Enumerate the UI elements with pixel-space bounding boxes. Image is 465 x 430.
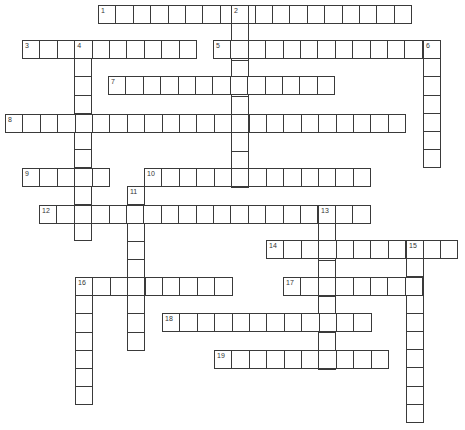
- crossword-cell[interactable]: [232, 313, 250, 332]
- crossword-cell[interactable]: [127, 313, 145, 332]
- crossword-cell[interactable]: [75, 295, 93, 314]
- crossword-cell[interactable]: [299, 76, 317, 95]
- crossword-cell[interactable]: [57, 40, 75, 59]
- crossword-cell[interactable]: [179, 277, 197, 296]
- crossword-cell[interactable]: [127, 222, 145, 241]
- crossword-cell[interactable]: [92, 277, 110, 296]
- crossword-cell[interactable]: [247, 76, 265, 95]
- crossword-cell[interactable]: [318, 332, 336, 351]
- crossword-cell[interactable]: [110, 277, 128, 296]
- crossword-cell[interactable]: [75, 386, 93, 405]
- crossword-cell[interactable]: [423, 58, 441, 77]
- crossword-cell[interactable]: [162, 277, 180, 296]
- crossword-cell[interactable]: [284, 313, 302, 332]
- crossword-cell[interactable]: [248, 205, 266, 224]
- crossword-cell[interactable]: [161, 40, 179, 59]
- crossword-cell[interactable]: [74, 205, 92, 224]
- crossword-cell[interactable]: [143, 76, 161, 95]
- crossword-cell[interactable]: 3: [22, 40, 40, 59]
- crossword-cell[interactable]: 5: [213, 40, 231, 59]
- crossword-cell[interactable]: [248, 168, 266, 187]
- crossword-cell[interactable]: 2: [231, 5, 249, 24]
- crossword-cell[interactable]: [301, 168, 319, 187]
- crossword-cell[interactable]: [56, 205, 74, 224]
- crossword-cell[interactable]: [168, 5, 186, 24]
- crossword-cell[interactable]: 14: [266, 240, 284, 259]
- crossword-cell[interactable]: [265, 40, 283, 59]
- crossword-cell[interactable]: [388, 240, 406, 259]
- crossword-cell[interactable]: [126, 205, 144, 224]
- crossword-cell[interactable]: [248, 40, 266, 59]
- crossword-cell[interactable]: [125, 76, 143, 95]
- crossword-cell[interactable]: [74, 76, 92, 95]
- crossword-cell[interactable]: [74, 186, 92, 205]
- crossword-cell[interactable]: [376, 5, 394, 24]
- crossword-cell[interactable]: [301, 114, 319, 133]
- crossword-cell[interactable]: [133, 5, 151, 24]
- crossword-cell[interactable]: [370, 277, 388, 296]
- crossword-cell[interactable]: [145, 277, 163, 296]
- crossword-cell[interactable]: [370, 114, 388, 133]
- crossword-cell[interactable]: [179, 313, 197, 332]
- crossword-cell[interactable]: [109, 114, 127, 133]
- crossword-cell[interactable]: [423, 149, 441, 168]
- crossword-cell[interactable]: [301, 240, 319, 259]
- crossword-cell[interactable]: [282, 76, 300, 95]
- crossword-cell[interactable]: 16: [75, 277, 93, 296]
- crossword-cell[interactable]: [266, 168, 284, 187]
- crossword-cell[interactable]: [74, 149, 92, 168]
- crossword-cell[interactable]: 6: [423, 40, 441, 59]
- crossword-cell[interactable]: [301, 313, 319, 332]
- crossword-cell[interactable]: [272, 5, 290, 24]
- crossword-cell[interactable]: 9: [22, 168, 40, 187]
- crossword-cell[interactable]: [371, 350, 389, 369]
- crossword-cell[interactable]: [318, 114, 336, 133]
- crossword-cell[interactable]: [404, 40, 422, 59]
- crossword-cell[interactable]: 18: [162, 313, 180, 332]
- crossword-cell[interactable]: [75, 368, 93, 387]
- crossword-cell[interactable]: [440, 240, 458, 259]
- crossword-cell[interactable]: [388, 114, 406, 133]
- crossword-cell[interactable]: [423, 76, 441, 95]
- crossword-cell[interactable]: [74, 168, 92, 187]
- crossword-cell[interactable]: [318, 240, 336, 259]
- crossword-cell[interactable]: [22, 114, 40, 133]
- crossword-cell[interactable]: 7: [108, 76, 126, 95]
- crossword-cell[interactable]: [405, 277, 423, 296]
- crossword-cell[interactable]: [40, 114, 58, 133]
- crossword-cell[interactable]: [289, 5, 307, 24]
- crossword-cell[interactable]: [266, 114, 284, 133]
- crossword-cell[interactable]: [126, 40, 144, 59]
- crossword-cell[interactable]: [91, 205, 109, 224]
- crossword-cell[interactable]: [57, 168, 75, 187]
- crossword-cell[interactable]: [214, 313, 232, 332]
- crossword-cell[interactable]: [352, 205, 370, 224]
- crossword-cell[interactable]: [75, 313, 93, 332]
- crossword-cell[interactable]: [185, 5, 203, 24]
- crossword-cell[interactable]: [127, 259, 145, 278]
- crossword-cell[interactable]: [336, 114, 354, 133]
- crossword-cell[interactable]: [265, 76, 283, 95]
- crossword-cell[interactable]: [92, 40, 110, 59]
- crossword-cell[interactable]: [283, 168, 301, 187]
- crossword-cell[interactable]: [370, 240, 388, 259]
- crossword-cell[interactable]: 13: [318, 205, 336, 224]
- crossword-cell[interactable]: [39, 168, 57, 187]
- crossword-cell[interactable]: [92, 114, 110, 133]
- crossword-cell[interactable]: [231, 96, 249, 115]
- crossword-cell[interactable]: [202, 5, 220, 24]
- crossword-cell[interactable]: [109, 40, 127, 59]
- crossword-cell[interactable]: [231, 168, 249, 187]
- crossword-cell[interactable]: [423, 113, 441, 132]
- crossword-cell[interactable]: [249, 114, 267, 133]
- crossword-cell[interactable]: [353, 240, 371, 259]
- crossword-cell[interactable]: [74, 222, 92, 241]
- crossword-cell[interactable]: [127, 332, 145, 351]
- crossword-cell[interactable]: [127, 277, 145, 296]
- crossword-cell[interactable]: [336, 240, 354, 259]
- crossword-cell[interactable]: [317, 76, 335, 95]
- crossword-cell[interactable]: [387, 277, 405, 296]
- crossword-cell[interactable]: [231, 132, 249, 151]
- crossword-cell[interactable]: [39, 40, 57, 59]
- crossword-cell[interactable]: [387, 40, 405, 59]
